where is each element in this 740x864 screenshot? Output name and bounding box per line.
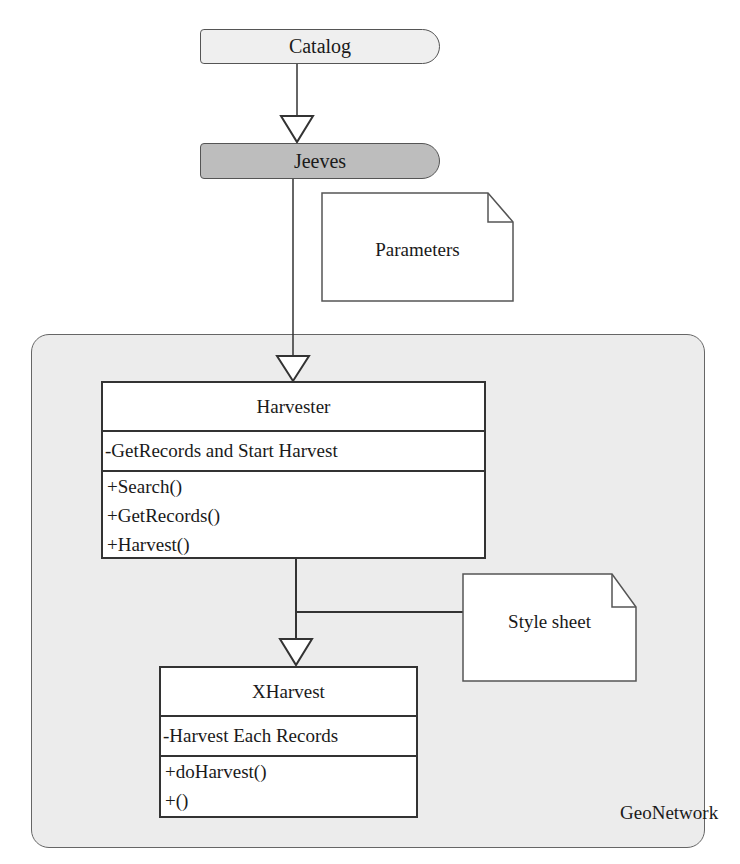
harvester-class: Harvester -GetRecords and Start Harvest …: [101, 381, 486, 559]
jeeves-label: Jeeves: [294, 150, 346, 173]
class-operation: +(): [165, 786, 416, 815]
class-name: Harvester: [103, 383, 484, 432]
class-operations: +Search() +GetRecords() +Harvest(): [103, 472, 484, 559]
class-attribute: -Harvest Each Records: [161, 717, 416, 757]
catalog-label: Catalog: [289, 35, 351, 58]
class-operation: +Harvest(): [107, 530, 484, 559]
generalization-arrow-icon: [280, 639, 312, 665]
stylesheet-note: Style sheet: [463, 600, 636, 644]
catalog-node: Catalog: [200, 29, 440, 64]
xharvest-class: XHarvest -Harvest Each Records +doHarves…: [159, 666, 418, 818]
parameters-label: Parameters: [375, 239, 459, 261]
class-name: XHarvest: [161, 668, 416, 717]
class-operation: +Search(): [107, 472, 484, 501]
class-operations: +doHarvest() +(): [161, 757, 416, 815]
class-attribute: -GetRecords and Start Harvest: [103, 432, 484, 472]
stylesheet-label: Style sheet: [508, 611, 591, 633]
jeeves-node: Jeeves: [200, 143, 440, 179]
parameters-note: Parameters: [322, 222, 513, 278]
class-operation: +doHarvest(): [165, 757, 416, 786]
class-operation: +GetRecords(): [107, 501, 484, 530]
generalization-arrow-icon: [277, 356, 309, 381]
